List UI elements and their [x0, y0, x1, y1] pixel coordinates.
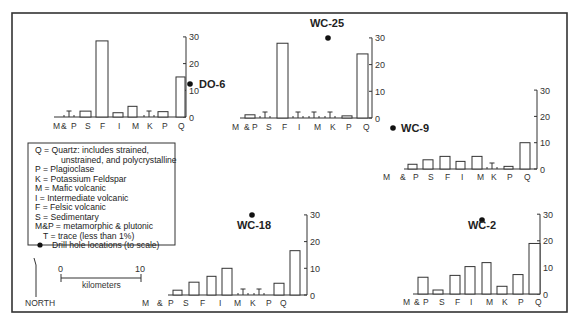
legend-item-metamorphic-plutonic: M&P = metamorphic & plutonic	[35, 221, 154, 231]
category-label: P	[162, 121, 168, 131]
legend-item-sedimentary: S = Sedimentary	[35, 212, 99, 222]
scale-bar: 0 10 kilometers	[58, 264, 145, 290]
category-label: M	[477, 172, 484, 182]
bar-q	[176, 77, 185, 117]
y-tick-label: 30	[375, 33, 385, 43]
bar-m	[482, 263, 491, 294]
bar-k	[497, 286, 507, 294]
category-label: Q	[280, 298, 287, 308]
bar-f	[450, 275, 460, 294]
site-label: WC-2	[468, 219, 496, 231]
bar-s	[433, 290, 443, 294]
bar-p	[158, 112, 168, 117]
category-label: P	[346, 122, 352, 132]
bar-p	[274, 283, 284, 295]
category-label: S	[439, 297, 445, 307]
bar-m-p	[418, 277, 428, 294]
category-label: F	[445, 172, 450, 182]
y-tick-label: 10	[375, 87, 385, 97]
category-label: P	[413, 172, 419, 182]
category-label: M	[232, 122, 239, 132]
bar-s	[189, 282, 199, 295]
chart-wc-25: 0102030M&PSFIMKPQWC-25	[232, 17, 385, 132]
site-label: DO-6	[199, 78, 225, 90]
category-label: Q	[524, 172, 531, 182]
bar-s	[423, 160, 433, 169]
y-tick-label: 20	[540, 112, 550, 122]
category-label: M	[53, 121, 60, 131]
legend-item-k-feldspar: K = Potassium Feldspar	[35, 174, 127, 184]
site-label: WC-9	[401, 122, 429, 134]
y-tick-label: 0	[189, 113, 194, 123]
y-tick-label: 10	[540, 138, 550, 148]
scale-unit-label: kilometers	[82, 280, 121, 290]
category-label: S	[183, 298, 189, 308]
bar-q	[290, 251, 300, 295]
legend-item-quartz: Q = Quartz: includes strained,	[35, 145, 149, 155]
bar-m-p	[408, 164, 417, 169]
bar-f	[96, 41, 108, 117]
bar-q	[529, 243, 540, 294]
category-label: &	[414, 297, 420, 307]
category-label: K	[502, 297, 508, 307]
legend-item-felsic: F = Felsic volcanic	[35, 202, 107, 212]
category-label: S	[85, 121, 91, 131]
y-tick-label: 10	[543, 263, 553, 273]
bar-q	[520, 143, 530, 169]
legend-item-quartz-cont: unstrained, and polycrystalline	[61, 155, 177, 165]
y-tick-label: 20	[189, 59, 199, 69]
site-label: WC-25	[310, 17, 344, 29]
bar-i	[222, 268, 232, 295]
north-arrow: NORTH	[25, 258, 55, 308]
y-tick-label: 30	[543, 210, 553, 220]
category-label: K	[330, 122, 336, 132]
figure: 0102030M&PSFIMKPQDO-60102030M&PSFIMKPQWC…	[0, 0, 578, 320]
category-label: I	[219, 298, 221, 308]
bar-m-p	[173, 290, 182, 295]
category-label: M	[314, 122, 321, 132]
chart-wc-2: 0102030M&PSFIMKPQWC-2	[403, 210, 553, 307]
category-label: I	[461, 172, 463, 182]
y-tick-label: 10	[310, 264, 320, 274]
y-tick-label: 20	[375, 60, 385, 70]
bar-f	[440, 156, 450, 169]
category-label: M	[234, 298, 241, 308]
scale-start-label: 0	[58, 264, 63, 274]
drill-hole-dot	[249, 212, 255, 218]
bar-q	[357, 54, 368, 118]
category-label: P	[71, 121, 77, 131]
category-label: Q	[363, 122, 370, 132]
category-label: F	[200, 298, 205, 308]
category-label: I	[298, 122, 300, 132]
drill-hole-dot	[325, 35, 331, 41]
bar-p	[342, 116, 352, 118]
category-label: F	[455, 297, 460, 307]
legend-item-trace: T = trace (less than 1%)	[43, 231, 134, 241]
category-label: &	[244, 122, 250, 132]
category-label: S	[266, 122, 272, 132]
y-tick-label: 0	[543, 290, 548, 300]
bar-i	[113, 113, 123, 117]
legend-item-plagioclase: P = Plagioclase	[35, 164, 95, 174]
legend-item-mafic: M = Mafic volcanic	[35, 183, 107, 193]
legend-item-intermediate: I = Intermediate volcanic	[35, 193, 129, 203]
category-label: F	[282, 122, 287, 132]
category-label: K	[491, 172, 497, 182]
bar-s	[80, 111, 91, 117]
drill-hole-icon	[37, 242, 42, 247]
bar-f	[277, 43, 288, 118]
legend: Q = Quartz: includes strained, unstraine…	[28, 143, 177, 250]
y-tick-label: 0	[310, 291, 315, 301]
y-tick-label: 30	[310, 210, 320, 220]
bar-m-p	[245, 115, 255, 118]
category-label: M	[383, 172, 390, 182]
category-label: P	[168, 298, 174, 308]
category-label: S	[428, 172, 434, 182]
category-label: I	[470, 297, 472, 307]
y-tick-label: 10	[189, 86, 199, 96]
category-label: P	[518, 297, 524, 307]
bar-f	[207, 276, 216, 295]
bar-m	[472, 156, 482, 169]
bar-p	[504, 166, 513, 169]
chart-wc-9: 0102030M&PSFIMKPQWC-9	[383, 86, 550, 182]
